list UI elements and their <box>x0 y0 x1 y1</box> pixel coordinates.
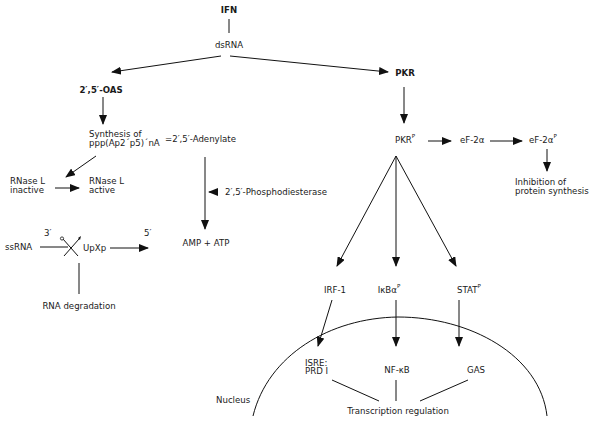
node-nfkb: NF-κB <box>384 365 410 375</box>
edge-dsrna-oas <box>112 56 221 72</box>
node-adenylate: =2′,5′-Adenylate <box>165 134 236 144</box>
interferon-pathway-diagram: IFN dsRNA 2′,5′-OAS PKR Synthesis of ppp… <box>0 0 595 422</box>
node-rnase-inactive-line2: inactive <box>10 185 44 195</box>
node-oas: 2′,5′-OAS <box>79 85 122 95</box>
edge-irf1-isre <box>318 300 332 346</box>
node-eif2a-p: eF-2αP <box>529 133 557 145</box>
node-nucleus: Nucleus <box>216 395 251 405</box>
node-eif2a: eF-2α <box>460 135 485 145</box>
node-rna-degradation: RNA degradation <box>42 301 115 311</box>
edge-pkrp-irf1 <box>337 156 396 266</box>
edge-synthesis-rnase <box>66 156 96 177</box>
edge-gas-transcription <box>420 380 468 401</box>
node-transcription-regulation: Transcription regulation <box>346 406 449 416</box>
node-phosphodiesterase: 2′,5′-Phosphodiesterase <box>225 187 327 197</box>
node-upxp: UpXp <box>83 243 106 253</box>
scissors-icon <box>60 236 81 256</box>
node-stat-p: STATP <box>457 283 482 295</box>
node-rnase-active-line2: active <box>89 185 115 195</box>
edge-pkrp-stat <box>396 156 456 266</box>
node-gas: GAS <box>467 365 485 375</box>
edge-isre-transcription <box>332 380 379 401</box>
node-isre-line2: PRD I <box>305 366 328 376</box>
node-irf1: IRF-1 <box>324 285 346 295</box>
node-ikba-p: IκBαP <box>378 283 401 295</box>
node-ssrna: ssRNA <box>5 242 32 252</box>
edge-dsrna-pkr <box>230 56 388 72</box>
node-synthesis-line2: ppp(Ap2´p5)´nA <box>89 138 160 148</box>
node-pkr: PKR <box>395 68 415 78</box>
node-amp-atp: AMP + ATP <box>183 238 230 248</box>
node-dsrna: dsRNA <box>215 40 243 50</box>
label-3-prime: 3′ <box>44 228 51 238</box>
node-inhibition-line2: protein synthesis <box>515 186 589 196</box>
node-pkr-p: PKRP <box>395 133 416 145</box>
node-ifn: IFN <box>221 5 237 15</box>
label-5-prime: 5′ <box>144 228 151 238</box>
